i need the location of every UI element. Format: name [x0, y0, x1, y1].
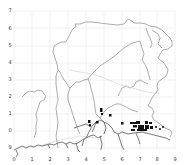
x-tick-label: 5	[100, 157, 108, 162]
y-tick-label: 9	[7, 145, 13, 150]
y-tick-label: 5	[7, 43, 13, 48]
y-tick-label: 6	[7, 26, 13, 31]
y-tick-label: 3	[7, 77, 13, 82]
x-tick-label: 1	[28, 157, 36, 162]
region-boundary	[22, 19, 172, 148]
y-tick-label: 4	[7, 60, 13, 65]
marker-cluster	[88, 108, 164, 131]
grid-lines	[14, 11, 175, 150]
map-canvas	[0, 0, 185, 165]
y-tick-label: 0	[7, 128, 13, 133]
y-tick-label: 1	[7, 111, 13, 116]
x-tick-label: 3	[64, 157, 72, 162]
x-tick-label: 2	[46, 157, 54, 162]
x-tick-label: 9	[171, 157, 179, 162]
y-tick-label: 2	[7, 94, 13, 99]
x-tick-label: 6	[118, 157, 126, 162]
x-tick-label: 0	[10, 157, 18, 162]
x-tick-label: 7	[136, 157, 144, 162]
y-tick-label: 7	[7, 8, 13, 13]
x-tick-label: 8	[153, 157, 161, 162]
x-tick-label: 4	[82, 157, 90, 162]
